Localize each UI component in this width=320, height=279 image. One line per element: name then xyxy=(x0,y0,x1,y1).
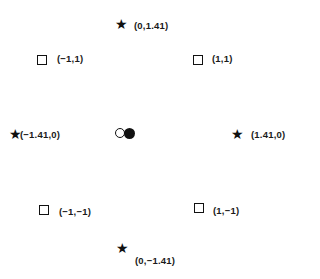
star-icon: ★ xyxy=(116,241,129,255)
star-icon: ★ xyxy=(115,17,128,31)
point-label-bottom-axial: (0,−1.41) xyxy=(135,255,175,266)
square-marker-icon xyxy=(37,55,47,65)
point-label-top-axial: (0,1.41) xyxy=(134,20,168,31)
point-label-right-axial: (1.41,0) xyxy=(251,129,285,140)
point-label-lower-right: (1,−1) xyxy=(213,205,239,216)
point-label-lower-left: (−1,−1) xyxy=(59,206,91,217)
square-marker-icon xyxy=(39,205,49,215)
point-label-upper-right: (1,1) xyxy=(212,53,233,64)
square-marker-icon xyxy=(193,55,203,65)
filled-circle-icon xyxy=(124,128,135,139)
point-label-upper-left: (−1,1) xyxy=(57,53,83,64)
point-label-left-axial: (−1.41,0) xyxy=(20,129,60,140)
star-icon: ★ xyxy=(231,127,244,141)
square-marker-icon xyxy=(194,203,204,213)
